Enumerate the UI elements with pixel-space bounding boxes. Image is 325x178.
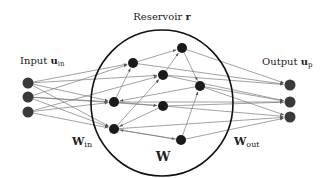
input-edge — [32, 65, 128, 96]
internal-edge — [182, 92, 198, 137]
w-in-label: Win — [71, 135, 92, 149]
internal-edge — [120, 130, 177, 139]
input-edge — [32, 113, 108, 128]
reservoir-node — [109, 97, 119, 107]
output-node — [285, 112, 296, 123]
reservoir-node — [109, 124, 119, 134]
output-edge — [167, 102, 284, 106]
input-node — [23, 78, 34, 89]
input-weight-edges — [32, 64, 158, 128]
input-edge — [32, 64, 127, 82]
reservoir-node — [176, 135, 186, 145]
internal-edge — [137, 50, 177, 62]
input-node — [23, 92, 34, 103]
output-edge — [167, 106, 284, 116]
reservoir-diagram: Reservoir r Input uin Output up Win W Wo… — [0, 0, 325, 178]
output-node — [285, 97, 296, 108]
input-edge — [32, 103, 108, 112]
reservoir-node — [158, 70, 168, 80]
internal-edge — [120, 87, 196, 101]
output-edge — [118, 117, 284, 128]
w-label: W — [155, 149, 171, 164]
reservoir-label: Reservoir r — [133, 11, 191, 22]
reservoir-node — [195, 81, 205, 91]
reservoir-node — [128, 58, 138, 68]
internal-edge — [119, 108, 159, 127]
output-edge — [167, 76, 284, 101]
reservoir-node — [158, 101, 168, 111]
output-weight-edges — [118, 49, 284, 139]
input-edge — [32, 98, 109, 127]
internal-edge — [184, 52, 198, 81]
output-node — [285, 80, 296, 91]
output-edge — [204, 87, 284, 101]
reservoir-node — [177, 43, 187, 53]
internal-edge — [116, 68, 131, 98]
input-node — [23, 107, 34, 118]
input-label: Input uin — [20, 55, 65, 68]
output-label: Output up — [262, 56, 313, 69]
node-layer — [23, 43, 296, 145]
w-out-label: Wout — [233, 135, 260, 149]
